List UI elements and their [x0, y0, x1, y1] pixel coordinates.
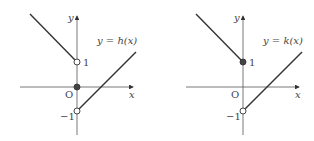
- graph-h: y x O 1 −1 y = h(x): [20, 12, 137, 135]
- y-label: y: [67, 12, 74, 23]
- open-point-neg1: [240, 108, 246, 114]
- filled-point-1: [240, 59, 246, 65]
- filled-point-0: [74, 84, 80, 90]
- x-label: x: [129, 89, 135, 100]
- tick-neg1: −1: [60, 111, 75, 122]
- diagram-canvas: y x O 1 −1 y = h(x) y x O 1 −1 y = k(x): [0, 0, 314, 141]
- tick-1: 1: [249, 57, 255, 68]
- open-point-1: [74, 59, 80, 65]
- graph-k: y x O 1 −1 y = k(x): [186, 12, 303, 135]
- y-label: y: [233, 12, 240, 23]
- equation-label: y = h(x): [96, 35, 137, 46]
- x-label: x: [295, 89, 301, 100]
- origin-label: O: [65, 89, 73, 100]
- equation-label: y = k(x): [262, 35, 303, 46]
- origin-label: O: [231, 89, 239, 100]
- tick-neg1: −1: [226, 111, 241, 122]
- tick-1: 1: [83, 57, 89, 68]
- open-point-neg1: [74, 108, 80, 114]
